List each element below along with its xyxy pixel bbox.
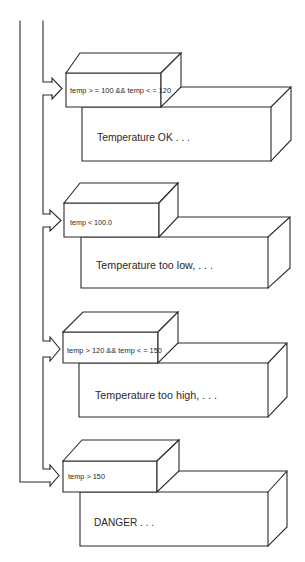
arrow-icon-branch-2 (50, 210, 61, 231)
action-text: Temperature too high, . . . (95, 389, 217, 401)
condition-block-1: temp > = 100 && temp < = 120 (66, 53, 181, 107)
arrow-icon-branch-4 (50, 465, 59, 486)
condition-block-2: temp < 100.0 (64, 183, 178, 237)
outer-flow-line (20, 21, 50, 482)
branch-3: Temperature too high, . . . temp > 120 &… (63, 312, 287, 417)
branch-4: DANGER . . . temp > 150 (63, 440, 287, 546)
switch-flow-diagram: Temperature OK . . . temp > = 100 && tem… (0, 0, 305, 562)
action-text: DANGER . . . (94, 516, 154, 528)
condition-text: temp > 120 && temp < = 150 (67, 347, 162, 355)
condition-text: temp > 150 (68, 473, 105, 481)
branch-1: Temperature OK . . . temp > = 100 && tem… (66, 53, 291, 161)
condition-block-4: temp > 150 (63, 440, 179, 492)
arrow-icon-branch-1 (52, 78, 62, 99)
flow-lines (20, 21, 52, 482)
arrow-icon-branch-3 (50, 337, 60, 361)
condition-text: temp < 100.0 (70, 219, 112, 227)
inner-flow-line-2 (43, 95, 52, 214)
inner-flow-line-4 (43, 357, 50, 469)
condition-block-3: temp > 120 && temp < = 150 (63, 312, 178, 363)
condition-text: temp > = 100 && temp < = 120 (70, 87, 171, 95)
action-text: Temperature too low, . . . (96, 259, 213, 271)
inner-flow-line-1 (43, 21, 52, 82)
inner-flow-line-3 (43, 227, 50, 341)
action-text: Temperature OK . . . (97, 131, 190, 143)
branch-arrows (50, 78, 62, 486)
branch-2: Temperature too low, . . . temp < 100.0 (64, 183, 290, 288)
